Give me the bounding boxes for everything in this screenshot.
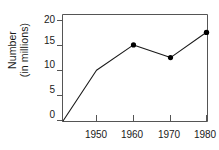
x-axis-ticks: [97, 115, 207, 122]
data-point-1960: [168, 55, 173, 60]
y-axis-ticks: [57, 21, 63, 121]
plot-border: [63, 15, 208, 122]
plot-area: [0, 0, 219, 150]
data-point-1980: [204, 30, 209, 35]
data-point-1950: [131, 42, 136, 47]
data-point-markers: [131, 30, 209, 61]
axis-frame: [63, 15, 208, 122]
chart-figure: Number (in millions) 20 15 10 5 0 1950 1…: [0, 0, 219, 150]
